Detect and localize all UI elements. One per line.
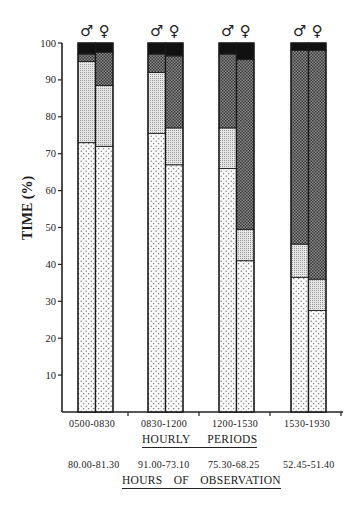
bars	[78, 43, 326, 412]
male-symbol-icon: ♂	[150, 22, 163, 40]
segment-fine-stipple	[237, 229, 255, 260]
segment-fine-stipple	[219, 128, 237, 169]
segment-fine-stipple	[148, 73, 166, 134]
segment-solid-black	[309, 43, 327, 50]
segment-solid-black	[96, 43, 114, 52]
x-axis-title-hours-of-observation: HOURS OF OBSERVATION	[122, 474, 281, 489]
segment-solid-black	[148, 43, 166, 54]
bar-0500-0830-male	[78, 43, 96, 412]
segment-sparse-dots	[148, 133, 166, 412]
y-tick-label: 60	[46, 185, 57, 196]
segment-fine-stipple	[78, 61, 96, 142]
bar-1530-1930-female	[309, 43, 327, 412]
segment-dark-crosshatch	[78, 54, 96, 61]
period-label-3: 1200-1530	[212, 418, 258, 429]
female-symbol-icon: ♀	[240, 22, 251, 40]
stacked-bar-chart: 102030405060708090100 ♂♀♂♀♂♀♂♀	[0, 0, 360, 507]
y-tick-label: 100	[40, 38, 56, 49]
segment-sparse-dots	[309, 311, 327, 412]
period-label-2: 0830-1200	[141, 418, 187, 429]
segment-sparse-dots	[78, 143, 96, 412]
segment-sparse-dots	[237, 261, 255, 412]
sex-symbols: ♂♀♂♀♂♀♂♀	[80, 22, 323, 40]
bar-1200-1530-male	[219, 43, 237, 412]
segment-dark-crosshatch	[309, 50, 327, 279]
segment-fine-stipple	[309, 279, 327, 310]
segment-dark-crosshatch	[148, 54, 166, 72]
segment-solid-black	[237, 43, 255, 60]
segment-fine-stipple	[166, 128, 184, 165]
period-label-1: 0500-0830	[69, 418, 115, 429]
hours-label-3: 75.30-68.25	[208, 459, 260, 470]
y-tick-label: 80	[46, 111, 57, 122]
period-label-4: 1530-1930	[284, 418, 330, 429]
y-tick-label: 50	[46, 222, 57, 233]
hours-label-1: 80.00-81.30	[68, 459, 120, 470]
bar-1530-1930-male	[291, 43, 309, 412]
hours-label-4: 52.45-51.40	[283, 459, 335, 470]
x-axis-title-hourly-periods: HOURLY PERIODS	[142, 433, 257, 448]
male-symbol-icon: ♂	[80, 22, 93, 40]
y-tick-label: 20	[46, 333, 57, 344]
bar-0830-1200-female	[166, 43, 184, 412]
segment-dark-crosshatch	[291, 50, 309, 244]
segment-sparse-dots	[96, 146, 114, 412]
y-tick-label: 40	[46, 259, 57, 270]
segment-solid-black	[291, 43, 309, 50]
segment-dark-crosshatch	[166, 56, 184, 128]
hours-label-2: 91.00-73.10	[138, 459, 190, 470]
male-symbol-icon: ♂	[221, 22, 234, 40]
segment-sparse-dots	[291, 277, 309, 412]
female-symbol-icon: ♀	[99, 22, 110, 40]
segment-dark-crosshatch	[96, 52, 114, 85]
y-tick-label: 70	[46, 148, 57, 159]
segment-solid-black	[166, 43, 184, 56]
y-tick-label: 90	[46, 74, 57, 85]
female-symbol-icon: ♀	[169, 22, 180, 40]
bar-1200-1530-female	[237, 43, 255, 412]
segment-sparse-dots	[166, 165, 184, 412]
segment-dark-crosshatch	[237, 60, 255, 230]
segment-fine-stipple	[291, 244, 309, 277]
segment-solid-black	[219, 43, 237, 54]
segment-fine-stipple	[96, 85, 114, 146]
y-axis-title: TIME (%)	[20, 168, 36, 248]
male-symbol-icon: ♂	[293, 22, 306, 40]
bar-0500-0830-female	[96, 43, 114, 412]
female-symbol-icon: ♀	[312, 22, 323, 40]
y-tick-label: 10	[46, 370, 57, 381]
y-tick-label: 30	[46, 296, 57, 307]
segment-sparse-dots	[219, 168, 237, 412]
bar-0830-1200-male	[148, 43, 166, 412]
segment-solid-black	[78, 43, 96, 54]
segment-dark-crosshatch	[219, 54, 237, 128]
